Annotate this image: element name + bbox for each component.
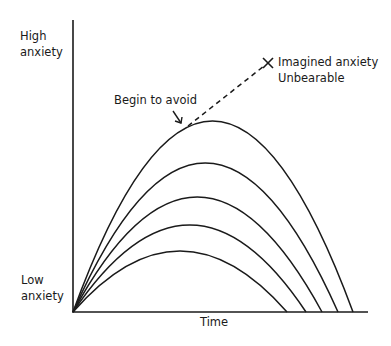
y-label-high-anxiety: anxiety bbox=[20, 44, 63, 60]
x-axis-label: Time bbox=[200, 314, 228, 330]
imagined-anxiety-label: Imagined anxiety bbox=[278, 54, 378, 70]
imagined-dashed-line bbox=[188, 66, 264, 126]
y-label-low: Low bbox=[21, 272, 44, 288]
curve-4 bbox=[73, 163, 338, 312]
curve-3 bbox=[73, 197, 322, 312]
avoid-arrow-icon bbox=[173, 111, 182, 123]
y-label-low-anxiety: anxiety bbox=[21, 288, 64, 304]
begin-to-avoid-label: Begin to avoid bbox=[114, 92, 197, 108]
x-marker-icon bbox=[263, 58, 273, 68]
curve-5 bbox=[73, 121, 353, 312]
y-label-high: High bbox=[20, 28, 46, 44]
unbearable-label: Unbearable bbox=[278, 70, 344, 86]
